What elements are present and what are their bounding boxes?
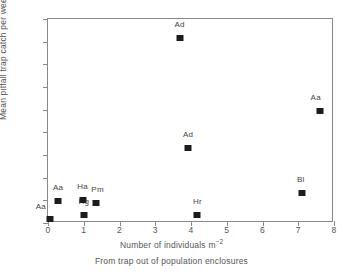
y-axis-title: Mean pitfall trap catch per week xyxy=(0,0,8,120)
data-point xyxy=(185,145,192,151)
data-point xyxy=(194,212,201,218)
x-tick-label: 1 xyxy=(81,225,86,235)
x-tick-label: 2 xyxy=(117,225,122,235)
data-point-label: Hr xyxy=(193,197,202,206)
x-tick-label: 8 xyxy=(332,225,337,235)
data-point xyxy=(55,198,62,204)
data-point-label: Bl xyxy=(297,175,305,184)
data-point xyxy=(176,35,183,41)
y-tick-mark xyxy=(43,42,48,43)
data-point-label: Pm xyxy=(91,185,103,194)
data-point-label: Aa xyxy=(36,202,46,211)
x-tick-label: 3 xyxy=(153,225,158,235)
x-axis-title: Number of individuals m−2 xyxy=(0,238,343,250)
y-tick-mark xyxy=(43,64,48,65)
data-point-label: Ad xyxy=(174,20,184,29)
data-point xyxy=(46,216,53,222)
data-point-label: Aa xyxy=(311,93,321,102)
data-point xyxy=(316,108,323,114)
y-tick-mark xyxy=(43,110,48,111)
data-point-label: Ha xyxy=(77,182,88,191)
data-point xyxy=(298,190,305,196)
x-tick-label: 0 xyxy=(46,225,51,235)
plot-area: 00.20.40.60.811.21.41.61.8 012345678 AaA… xyxy=(47,18,333,222)
y-tick-mark xyxy=(43,19,48,20)
scatter-plot-figure: Mean pitfall trap catch per week 00.20.4… xyxy=(0,0,343,274)
data-point xyxy=(92,200,99,206)
x-tick-label: 5 xyxy=(224,225,229,235)
data-point xyxy=(79,197,86,203)
x-axis-title-exponent: −2 xyxy=(216,238,223,245)
figure-caption: From trap out of population enclosures xyxy=(0,256,343,266)
y-tick-mark xyxy=(43,155,48,156)
x-tick-label: 6 xyxy=(260,225,265,235)
x-tick-label: 4 xyxy=(189,225,194,235)
data-point xyxy=(80,212,87,218)
y-tick-mark xyxy=(43,132,48,133)
data-point-label: Ad xyxy=(183,130,193,139)
x-tick-label: 7 xyxy=(296,225,301,235)
y-tick-mark xyxy=(43,178,48,179)
data-point-label: Aa xyxy=(53,183,63,192)
x-axis-title-text: Number of individuals m xyxy=(120,240,216,250)
y-tick-mark xyxy=(43,87,48,88)
